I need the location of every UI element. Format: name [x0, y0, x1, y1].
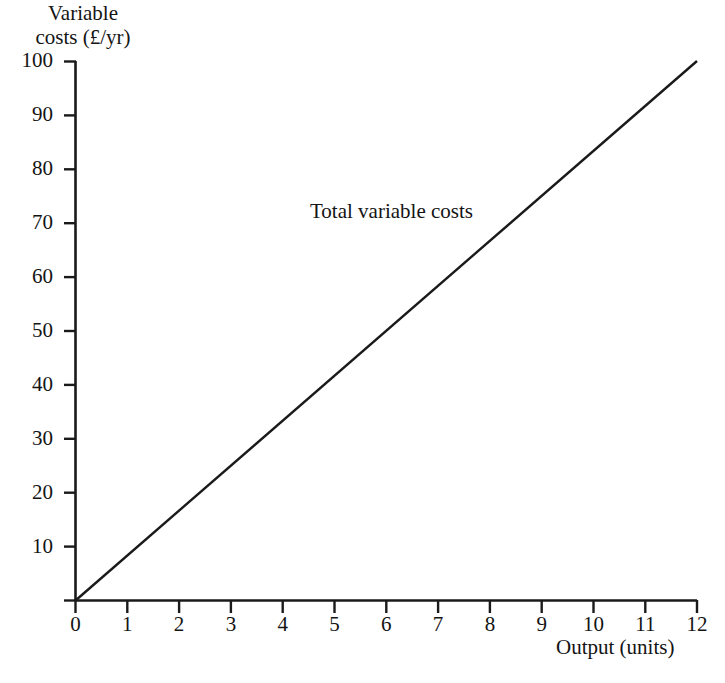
y-tick-label-100: 100 [1, 48, 53, 73]
x-tick-label-8: 8 [470, 612, 510, 637]
y-tick-label-60: 60 [1, 264, 53, 289]
x-tick-label-12: 12 [677, 612, 717, 637]
x-axis-title: Output (units) [556, 636, 725, 660]
x-tick-label-5: 5 [315, 612, 355, 637]
x-tick-label-11: 11 [625, 612, 665, 637]
y-tick-label-30: 30 [1, 426, 53, 451]
y-tick-label-90: 90 [1, 102, 53, 127]
series-line-total-variable-costs [76, 61, 698, 601]
chart-plot-area [0, 0, 725, 683]
y-axis-title-line-1: Variable [8, 2, 158, 26]
x-tick-label-2: 2 [159, 612, 199, 637]
y-tick-label-10: 10 [1, 534, 53, 559]
x-tick-label-4: 4 [263, 612, 303, 637]
x-tick-label-3: 3 [211, 612, 251, 637]
y-tick-label-70: 70 [1, 210, 53, 235]
y-axis-title: Variable costs (£/yr) [8, 2, 158, 49]
x-tick-label-1: 1 [107, 612, 147, 637]
y-axis-title-line-2: costs (£/yr) [8, 26, 158, 50]
x-tick-label-10: 10 [574, 612, 614, 637]
x-tick-label-0: 0 [56, 612, 96, 637]
y-tick-label-20: 20 [1, 480, 53, 505]
y-tick-label-50: 50 [1, 318, 53, 343]
x-tick-label-6: 6 [366, 612, 406, 637]
x-tick-label-9: 9 [522, 612, 562, 637]
y-tick-label-80: 80 [1, 156, 53, 181]
y-tick-label-40: 40 [1, 372, 53, 397]
x-tick-label-7: 7 [418, 612, 458, 637]
series-annotation-total-variable-costs: Total variable costs [310, 199, 473, 224]
chart-figure: Variable costs (£/yr) Output (units) Tot… [0, 0, 725, 683]
